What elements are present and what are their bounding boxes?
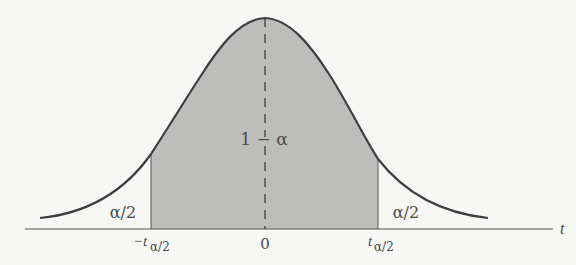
- center-region-label: 1 − α: [240, 129, 288, 149]
- right-tail-label: α/2: [393, 203, 419, 222]
- tick-left-main: −t: [133, 233, 148, 249]
- tick-left: −t α/2: [133, 233, 170, 254]
- t-distribution-diagram: 1 − α α/2 α/2 t −t α/2 0 t α/2: [0, 0, 576, 265]
- tick-left-subscript: α/2: [150, 240, 170, 254]
- tick-right: t α/2: [368, 233, 394, 254]
- axis-variable-label: t: [560, 220, 565, 237]
- left-tail-label: α/2: [110, 203, 136, 222]
- tick-center: 0: [260, 235, 270, 253]
- tick-right-main: t: [368, 233, 373, 249]
- diagram-svg: 1 − α α/2 α/2 t −t α/2 0 t α/2: [0, 0, 576, 265]
- tick-right-subscript: α/2: [374, 240, 394, 254]
